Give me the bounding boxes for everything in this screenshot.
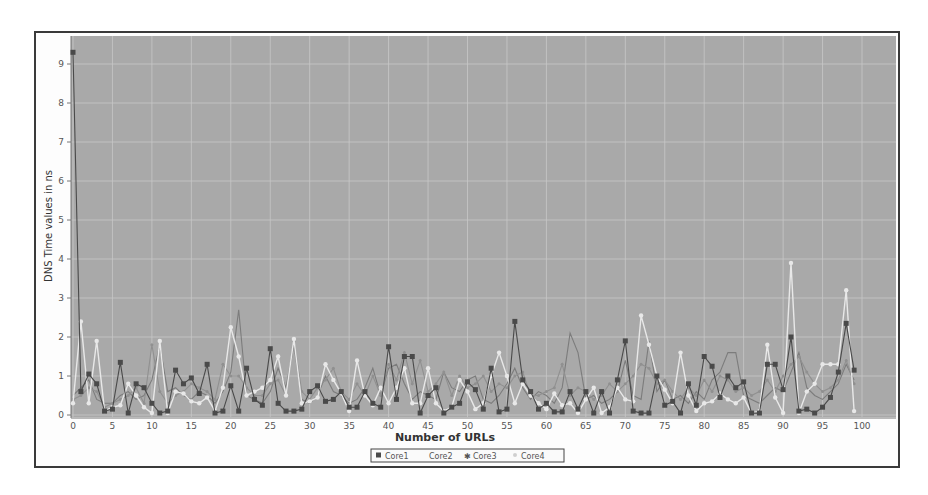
data-point: [402, 354, 407, 359]
y-tick-label: 4: [58, 254, 64, 264]
x-tick-label: 100: [853, 421, 870, 431]
legend-item-core2[interactable]: Core2: [429, 452, 453, 461]
data-point: [844, 288, 848, 292]
data-point: [206, 390, 209, 393]
data-point: [158, 339, 162, 343]
data-point: [639, 411, 644, 416]
y-tick-label: 7: [58, 137, 64, 147]
data-point: [395, 378, 398, 381]
data-point: [647, 367, 650, 370]
x-tick-label: 45: [422, 421, 433, 431]
data-point: [355, 405, 360, 410]
data-point: [505, 374, 509, 378]
data-point: [608, 382, 611, 385]
legend: Core1Core2✱Core3Core4: [371, 449, 564, 462]
data-point: [332, 367, 335, 370]
data-point: [734, 401, 738, 405]
data-point: [607, 411, 612, 416]
data-point: [575, 407, 580, 412]
data-point: [497, 409, 502, 414]
data-point: [189, 375, 194, 380]
data-point: [276, 354, 280, 358]
data-point: [829, 386, 832, 389]
x-tick-label: 90: [777, 421, 789, 431]
data-point: [78, 389, 83, 394]
data-point: [623, 397, 627, 401]
data-point: [686, 393, 690, 397]
data-point: [165, 409, 170, 414]
data-point: [118, 403, 122, 407]
data-point: [797, 355, 800, 358]
data-point: [150, 343, 153, 346]
x-tick-label: 10: [146, 421, 158, 431]
x-axis: 0510152025303540455055606570758085909510…: [70, 418, 896, 431]
data-point: [87, 401, 91, 405]
data-point: [678, 411, 683, 416]
y-axis: 0123456789: [58, 36, 71, 420]
data-point: [804, 407, 809, 412]
data-point: [410, 401, 414, 405]
x-tick-label: 85: [738, 421, 749, 431]
data-point: [221, 363, 224, 366]
data-point: [323, 362, 327, 366]
data-point: [181, 381, 186, 386]
data-point: [781, 387, 786, 392]
data-point: [583, 389, 588, 394]
data-point: [828, 395, 833, 400]
data-point: [465, 379, 470, 384]
data-point: [789, 363, 792, 366]
data-point: [678, 350, 682, 354]
data-point: [221, 386, 225, 390]
y-tick-label: 9: [58, 59, 64, 69]
data-point: [733, 385, 738, 390]
data-point: [640, 363, 643, 366]
data-point: [497, 350, 501, 354]
data-point: [703, 378, 706, 381]
y-tick-label: 0: [58, 410, 64, 420]
data-point: [142, 385, 147, 390]
x-tick-label: 75: [659, 421, 670, 431]
data-point: [252, 397, 257, 402]
x-tick-label: 30: [304, 421, 316, 431]
data-point: [702, 401, 706, 405]
data-point: [845, 359, 848, 362]
data-point: [308, 399, 312, 403]
data-point: [805, 389, 809, 393]
data-point: [379, 386, 383, 390]
data-point: [149, 401, 154, 406]
data-point: [370, 401, 375, 406]
data-point: [205, 395, 209, 399]
data-point: [362, 389, 367, 394]
data-point: [205, 362, 210, 367]
data-point: [236, 354, 240, 358]
data-point: [576, 386, 579, 389]
data-point: [679, 398, 682, 401]
data-point: [741, 379, 746, 384]
data-point: [237, 375, 240, 378]
data-point: [741, 395, 745, 399]
data-point: [457, 401, 462, 406]
data-point: [79, 394, 82, 397]
data-point: [536, 407, 541, 412]
data-point: [260, 386, 264, 390]
data-point: [173, 389, 177, 393]
data-point: [236, 409, 241, 414]
y-tick-label: 1: [58, 371, 64, 381]
data-point: [686, 381, 691, 386]
data-point: [426, 366, 430, 370]
x-tick-label: 95: [817, 421, 828, 431]
data-point: [71, 401, 75, 405]
data-point: [95, 390, 98, 393]
y-tick-label: 2: [58, 332, 64, 342]
data-point: [599, 389, 604, 394]
data-point: [836, 370, 841, 375]
square-marker-icon: [376, 453, 381, 458]
data-point: [490, 390, 493, 393]
data-point: [552, 409, 557, 414]
data-point: [552, 391, 556, 395]
data-point: [821, 390, 824, 393]
legend-label: Core2: [429, 452, 453, 461]
data-point: [812, 382, 816, 386]
data-point: [94, 339, 98, 343]
legend-item-core3[interactable]: ✱Core3: [464, 452, 497, 461]
